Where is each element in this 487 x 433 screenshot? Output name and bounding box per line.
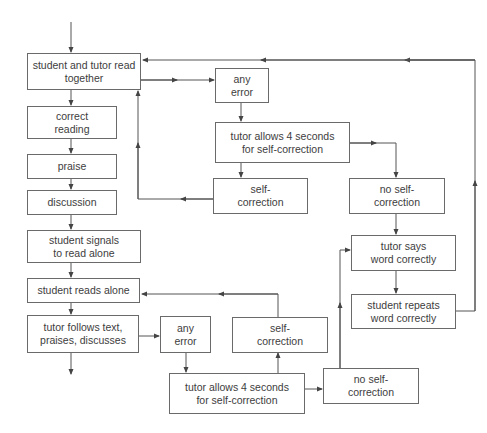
edge-selfcorr1-read <box>138 91 213 199</box>
node-self-correction-upper: self-correction <box>213 178 308 214</box>
node-self-correction-lower: self-correction <box>232 317 328 353</box>
node-tutor-follows-text: tutor follows text, praises, discusses <box>27 315 139 353</box>
node-correct-reading: correct reading <box>27 106 117 139</box>
node-no-self-correction-upper: no self-correction <box>349 178 445 214</box>
node-tutor-allows-lower: tutor allows 4 seconds for self-correcti… <box>169 373 305 414</box>
node-read-together: student and tutor read together <box>27 53 141 90</box>
node-student-signals: student signals to read alone <box>27 230 141 263</box>
node-any-error-upper: any error <box>215 68 269 103</box>
node-tutor-says-word: tutor says word correctly <box>351 235 456 271</box>
edge-noselfcorr2-says <box>340 250 350 368</box>
node-student-reads-alone: student reads alone <box>27 278 140 303</box>
edge-wait1-noselfcorr1 <box>349 143 396 177</box>
node-student-repeats-word: student repeats word correctly <box>351 294 456 329</box>
node-discussion: discussion <box>27 190 117 215</box>
edge-selfcorr2-readsalone <box>142 294 278 317</box>
node-praise: praise <box>27 154 117 179</box>
node-any-error-lower: any error <box>160 316 211 353</box>
node-no-self-correction-lower: no self-correction <box>323 368 419 404</box>
node-tutor-allows-upper: tutor allows 4 seconds for self-correcti… <box>215 122 350 163</box>
